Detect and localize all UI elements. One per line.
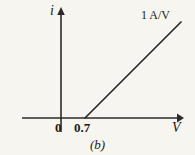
figure-container: i V 0 0.7 1 A/V (b) (0, 0, 195, 155)
plot-svg (0, 0, 195, 155)
threshold-tick-label: 0.7 (74, 121, 90, 134)
figure-caption: (b) (0, 138, 195, 151)
y-axis-arrowhead-icon (57, 7, 65, 15)
x-axis-label: V (172, 121, 181, 135)
y-axis-label: i (50, 4, 54, 18)
slope-annotation-label: 1 A/V (141, 9, 170, 21)
characteristic-line (85, 22, 181, 118)
origin-tick-label: 0 (55, 121, 62, 134)
